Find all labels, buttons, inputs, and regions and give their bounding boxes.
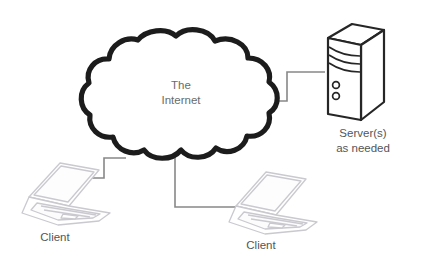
- client-laptop-right-label: Client: [216, 239, 306, 251]
- network-diagram-canvas: The Internet Server(s) as needed: [0, 0, 423, 271]
- laptop-graphic-right: [229, 172, 317, 234]
- client-laptop-right: [0, 0, 423, 271]
